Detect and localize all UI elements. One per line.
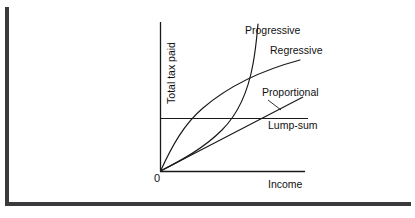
tax-incidence-chart-figure: Progressive Regressive Proportional Lump… <box>0 0 415 218</box>
curve-label-proportional: Proportional <box>262 87 319 98</box>
curve-regressive <box>161 60 301 171</box>
y-axis-title: Total tax paid <box>165 31 177 115</box>
curve-label-lump-sum: Lump-sum <box>268 120 318 131</box>
chart-plot-area <box>0 0 415 218</box>
leader-line-proportional <box>268 100 281 110</box>
x-axis-title: Income <box>268 179 302 190</box>
curve-label-regressive: Regressive <box>270 45 323 56</box>
origin-tick-label: 0 <box>154 173 160 184</box>
curve-label-progressive: Progressive <box>245 25 300 36</box>
